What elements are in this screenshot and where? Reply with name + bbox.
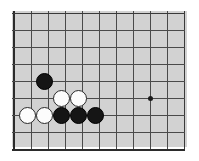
hoshi-icon [148, 96, 153, 101]
grid-line-horizontal [12, 132, 185, 133]
grid-line-horizontal [12, 98, 185, 99]
black-stone-4[interactable] [87, 107, 104, 124]
black-stone-3[interactable] [70, 107, 87, 124]
white-stone-2[interactable] [70, 90, 87, 107]
white-stone-1[interactable] [53, 90, 70, 107]
grid-line-horizontal [12, 47, 185, 48]
grid-line-horizontal [12, 30, 185, 31]
white-stone-4[interactable] [36, 107, 53, 124]
grid-line-horizontal [12, 149, 185, 151]
black-stone-1[interactable] [36, 73, 53, 90]
grid-line-horizontal [12, 13, 185, 14]
go-board [12, 11, 187, 147]
black-stone-2[interactable] [53, 107, 70, 124]
grid-line-horizontal [12, 64, 185, 65]
go-diagram [0, 0, 199, 161]
white-stone-3[interactable] [19, 107, 36, 124]
